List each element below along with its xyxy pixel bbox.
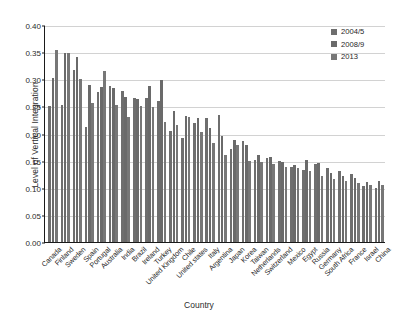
y-axis-tick-mark [42,243,45,244]
bar-group [192,26,204,242]
bar [333,179,336,242]
y-axis-tick-label: 0.15 [25,157,41,166]
bar [103,71,106,242]
bar [185,116,188,242]
bar-group [47,26,59,242]
legend-item[interactable]: 2013 [331,52,364,61]
bar [79,79,82,242]
bar [224,155,227,242]
bar [269,157,272,242]
bar-chart: Level of Vertical Integration 0.000.050.… [0,0,398,323]
bar [112,88,115,242]
bar-group [301,26,313,242]
bar [309,171,312,242]
bar [200,132,203,242]
bar [188,117,191,242]
bar-group [83,26,95,242]
bar-group [313,26,325,242]
bar [164,122,167,242]
bar [257,155,260,242]
bar-group [180,26,192,242]
legend-swatch-icon [331,54,337,60]
y-axis-tick-label: 0.20 [25,130,41,139]
bar [233,140,236,242]
bar [91,103,94,242]
bar [345,181,348,242]
bar [173,111,176,242]
bar [136,99,139,242]
bar [326,168,329,242]
bar-group [289,26,301,242]
bar [266,158,269,242]
bar [61,105,64,242]
bar [109,86,112,242]
bar [212,143,215,242]
y-axis-tick-label: 0.25 [25,103,41,112]
bar [293,165,296,242]
bar [254,160,257,242]
bar-group [276,26,288,242]
bar [230,149,233,242]
bar [160,80,163,242]
bar [317,163,320,242]
bar-group [71,26,83,242]
bar [48,106,51,242]
bar [321,176,324,242]
bar [181,138,184,242]
bar [73,70,76,243]
bar [197,118,200,242]
bar [176,125,179,242]
legend-item[interactable]: 2004/5 [331,27,364,36]
bar [354,178,357,242]
bar [100,87,103,242]
bar [338,171,341,242]
bar-group [144,26,156,242]
bar [381,185,384,242]
bar [85,127,88,242]
y-axis-tick-label: 0.30 [25,76,41,85]
legend-label: 2008/9 [341,40,364,49]
bar [272,164,275,242]
bar [236,145,239,242]
legend-item[interactable]: 2008/9 [331,40,364,49]
bar [357,183,360,242]
bar [157,101,160,242]
bar [362,186,365,242]
bar-group [228,26,240,242]
bar-group [168,26,180,242]
bar [242,141,245,242]
bar-group [216,26,228,242]
y-axis-tick-label: 0.40 [25,22,41,31]
bar-group [107,26,119,242]
bar [350,174,353,242]
bar [152,107,155,242]
bar-group [373,26,385,242]
y-axis-tick-label: 0.05 [25,211,41,220]
bar [330,173,333,242]
bar [121,91,124,242]
bar [140,106,143,242]
legend-label: 2004/5 [341,27,364,36]
bar [55,50,58,242]
legend-swatch-icon [331,41,337,47]
bar [67,53,70,242]
bar [314,164,317,242]
bar [52,78,55,242]
bar [133,98,136,242]
legend-label: 2013 [341,52,358,61]
bar [290,167,293,242]
bar-group [59,26,71,242]
bar [193,123,196,242]
bar [64,53,67,242]
legend-swatch-icon [331,29,337,35]
bar [127,117,130,242]
bar [218,115,221,242]
bar [221,136,224,242]
bar [278,161,281,242]
bar [305,160,308,242]
bar [169,131,172,242]
bar [342,176,345,242]
bar [281,162,284,242]
bar [297,168,300,242]
bar-group [119,26,131,242]
